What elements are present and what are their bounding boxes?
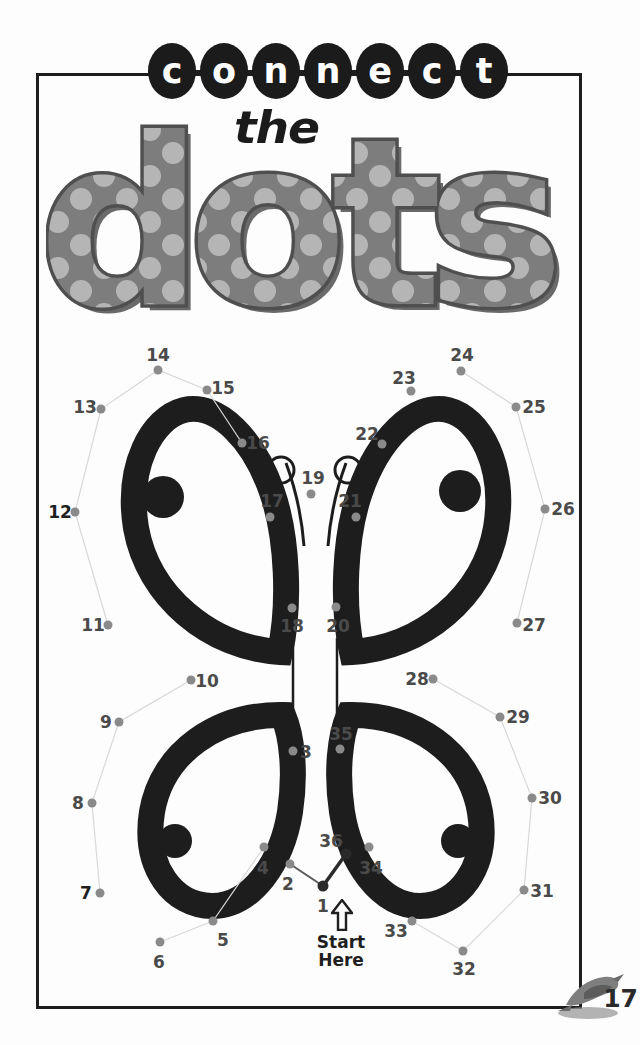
- puzzle-dot-label-25: 25: [522, 397, 546, 417]
- puzzle-dot-19: [307, 490, 316, 499]
- puzzle-dot-28: [429, 675, 438, 684]
- puzzle-dot-11: [104, 621, 113, 630]
- connect-letter-7: t: [460, 43, 508, 99]
- puzzle-dot-27: [513, 619, 522, 628]
- puzzle-dot-label-2: 2: [282, 874, 294, 894]
- puzzle-dot-22: [378, 440, 387, 449]
- puzzle-dot-15: [203, 386, 212, 395]
- puzzle-dot-label-11: 11: [81, 615, 105, 635]
- wing-spot-lower-left: [158, 824, 192, 858]
- wing-spot-lower-right: [441, 824, 475, 858]
- wing-spot-upper-left: [142, 476, 184, 518]
- puzzle-dot-label-7: 7: [80, 883, 92, 903]
- puzzle-dot-label-34: 34: [359, 858, 383, 878]
- start-here-label: Start Here: [286, 933, 396, 969]
- puzzle-dot-34: [365, 843, 374, 852]
- puzzle-dot-label-3: 3: [300, 742, 312, 762]
- puzzle-dot-label-5: 5: [217, 930, 229, 950]
- puzzle-dot-3: [289, 747, 298, 756]
- puzzle-dot-17: [266, 513, 275, 522]
- puzzle-dot-16: [238, 439, 247, 448]
- puzzle-dot-label-23: 23: [392, 368, 416, 388]
- puzzle-dot-label-35: 35: [329, 724, 353, 744]
- puzzle-dot-label-14: 14: [146, 345, 170, 365]
- puzzle-dot-label-8: 8: [72, 793, 84, 813]
- puzzle-dot-18: [288, 604, 297, 613]
- puzzle-dot-label-30: 30: [538, 788, 562, 808]
- puzzle-dot-25: [512, 403, 521, 412]
- puzzle-dot-2: [286, 860, 295, 869]
- puzzle-dot-label-18: 18: [280, 616, 304, 636]
- page-number: 17: [603, 984, 638, 1013]
- puzzle-dot-label-15: 15: [211, 378, 235, 398]
- puzzle-dot-20: [332, 603, 341, 612]
- connect-letter-6: c: [408, 43, 456, 99]
- puzzle-dot-label-26: 26: [551, 499, 575, 519]
- puzzle-dot-24: [457, 367, 466, 376]
- puzzle-dot-33: [408, 917, 417, 926]
- puzzle-dot-32: [459, 947, 468, 956]
- puzzle-dot-label-9: 9: [100, 712, 112, 732]
- puzzle-dot-label-21: 21: [338, 491, 362, 511]
- puzzle-dot-12: [71, 508, 80, 517]
- puzzle-dot-31: [520, 886, 529, 895]
- puzzle-dot-29: [496, 713, 505, 722]
- connect-letter-4: n: [304, 43, 352, 99]
- connect-letter-1: c: [148, 43, 196, 99]
- puzzle-dot-label-20: 20: [326, 616, 350, 636]
- puzzle-dot-label-27: 27: [522, 615, 546, 635]
- start-here-line1: Start: [286, 933, 396, 951]
- puzzle-dot-label-24: 24: [450, 345, 474, 365]
- start-arrow-icon: [331, 899, 353, 931]
- puzzle-dot-10: [187, 676, 196, 685]
- connect-letter-3: n: [252, 43, 300, 99]
- puzzle-dot-26: [541, 505, 550, 514]
- puzzle-dot-4: [260, 843, 269, 852]
- start-here-line2: Here: [286, 951, 396, 969]
- puzzle-dot-label-12: 12: [48, 502, 72, 522]
- wing-spot-upper-right: [439, 470, 481, 512]
- connect-letter-5: e: [356, 43, 404, 99]
- puzzle-dot-13: [97, 405, 106, 414]
- puzzle-dot-label-22: 22: [355, 424, 379, 444]
- puzzle-dot-label-1: 1: [317, 896, 329, 916]
- puzzle-dot-label-10: 10: [195, 671, 219, 691]
- wing-lower-left: [150, 715, 292, 906]
- puzzle-dot-label-6: 6: [153, 952, 165, 972]
- puzzle-dot-7: [96, 889, 105, 898]
- page-corner-decoration: 17: [554, 965, 640, 1027]
- puzzle-dot-14: [154, 366, 163, 375]
- puzzle-dot-21: [352, 513, 361, 522]
- puzzle-dot-6: [156, 938, 165, 947]
- puzzle-dot-9: [115, 718, 124, 727]
- puzzle-dot-label-32: 32: [452, 959, 476, 979]
- puzzle-dot-35: [336, 745, 345, 754]
- bird-tail: [558, 1005, 572, 1011]
- puzzle-page: c o n n e c t the dots dots: [0, 0, 640, 1045]
- connect-letter-2: o: [200, 43, 248, 99]
- title-the: the: [234, 101, 319, 154]
- puzzle-dot-label-16: 16: [246, 433, 270, 453]
- puzzle-dot-label-4: 4: [257, 858, 269, 878]
- puzzle-dot-30: [528, 794, 537, 803]
- puzzle-dot-label-31: 31: [530, 881, 554, 901]
- puzzle-dot-label-17: 17: [260, 491, 284, 511]
- title-connect: c o n n e c t: [148, 43, 508, 101]
- wing-upper-right: [346, 409, 498, 652]
- puzzle-dot-1: [318, 881, 329, 892]
- puzzle-dot-label-29: 29: [506, 707, 530, 727]
- puzzle-dot-5: [209, 917, 218, 926]
- puzzle-dot-8: [88, 799, 97, 808]
- puzzle-dot-label-36: 36: [319, 831, 343, 851]
- puzzle-dot-label-19: 19: [301, 468, 325, 488]
- puzzle-dot-label-13: 13: [73, 397, 97, 417]
- puzzle-dot-label-28: 28: [405, 669, 429, 689]
